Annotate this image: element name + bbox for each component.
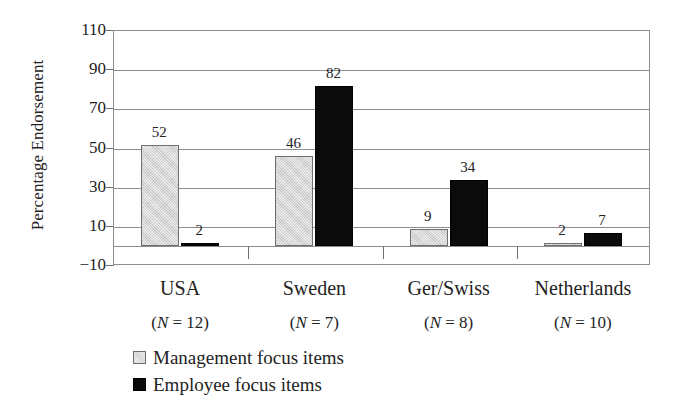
gridline-10 [114, 227, 649, 228]
bar-value-ger-swiss-employee: 34 [460, 159, 475, 176]
category-separator-0 [248, 246, 249, 259]
y-tick-label-110: 110 [46, 20, 106, 40]
category-n-ger-swiss: (N = 8) [424, 313, 473, 333]
bar-netherlands-management [544, 243, 582, 247]
category-separator-1 [383, 246, 384, 259]
bar-value-usa-employee: 2 [195, 222, 203, 239]
management-swatch-icon [133, 351, 146, 364]
zero-baseline [114, 246, 649, 247]
bar-value-sweden-employee: 82 [326, 65, 341, 82]
legend-item-employee: Employee focus items [133, 371, 344, 398]
y-tick-label-10: 10 [46, 216, 106, 236]
category-label-usa: USA [160, 277, 200, 300]
gridline-70 [114, 109, 649, 110]
y-axis-title: Percentage Endorsement [28, 15, 48, 275]
bar-value-sweden-management: 46 [286, 135, 301, 152]
category-n-netherlands: (N = 10) [554, 313, 612, 333]
y-tick-label-70: 70 [46, 98, 106, 118]
bar-value-usa-management: 52 [152, 124, 167, 141]
bar-netherlands-employee [584, 233, 622, 247]
category-label-ger-swiss: Ger/Swiss [408, 277, 490, 300]
y-tick-mark--10 [106, 265, 114, 266]
bar-value-netherlands-management: 2 [558, 222, 566, 239]
bar-ger-swiss-employee [450, 180, 488, 247]
bar-sweden-management [275, 156, 313, 246]
category-label-netherlands: Netherlands [535, 277, 632, 300]
category-separator-2 [517, 246, 518, 259]
bar-sweden-employee [315, 86, 353, 247]
gridline-30 [114, 188, 649, 189]
bar-value-ger-swiss-management: 9 [424, 208, 432, 225]
y-tick-label-50: 50 [46, 138, 106, 158]
employee-swatch-icon [133, 378, 146, 391]
category-n-sweden: (N = 7) [290, 313, 339, 333]
plot-area [113, 30, 650, 265]
bar-usa-employee [181, 243, 219, 247]
legend-item-management: Management focus items [133, 344, 344, 371]
bar-chart-figure: Percentage Endorsement 1109070503010−10 … [0, 0, 684, 413]
category-n-usa: (N = 12) [151, 313, 209, 333]
bar-value-netherlands-employee: 7 [598, 212, 606, 229]
y-tick-label--10: −10 [46, 255, 106, 275]
legend-label-employee: Employee focus items [153, 375, 322, 394]
gridline-50 [114, 149, 649, 150]
chart-legend: Management focus items Employee focus it… [133, 344, 344, 398]
legend-label-management: Management focus items [153, 348, 344, 367]
bar-ger-swiss-management [410, 229, 448, 247]
y-tick-label-30: 30 [46, 177, 106, 197]
bar-usa-management [141, 145, 179, 247]
category-label-sweden: Sweden [283, 277, 346, 300]
y-tick-label-90: 90 [46, 59, 106, 79]
gridline-90 [114, 70, 649, 71]
